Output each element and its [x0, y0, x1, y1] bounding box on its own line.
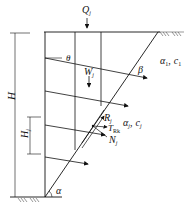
height-label: H: [5, 91, 17, 101]
slice-line-4: [45, 157, 88, 164]
slip-surface-line: [45, 32, 158, 197]
tangential-arrow: [93, 126, 107, 127]
hj-label: Hj: [19, 129, 31, 139]
slice-line-1: [45, 58, 147, 78]
soil-layer-j-label: αj,cj: [123, 117, 142, 129]
diagram-canvas: Qj Wj θ β α Rj TRk Nj H Hj α1,c1 αj,cj: [0, 0, 194, 208]
alpha-arc: [49, 191, 52, 197]
retaining-wall-diagram: Qj Wj θ β α Rj TRk Nj H Hj α1,c1 αj,cj: [0, 0, 194, 208]
ground-hatch-bottom: [18, 198, 39, 202]
theta-label: θ: [66, 53, 71, 63]
beta-label: β: [137, 64, 143, 75]
normal-line: [93, 126, 107, 137]
load-label: Qj: [82, 4, 91, 16]
weight-label: Wj: [84, 66, 94, 78]
alpha-label: α: [56, 185, 62, 196]
tangential-label: TRk: [108, 123, 120, 134]
normal-label: Nj: [108, 134, 118, 146]
ground-hatch-top: [158, 32, 184, 36]
soil-layer-1-label: α1,c1: [160, 55, 181, 67]
